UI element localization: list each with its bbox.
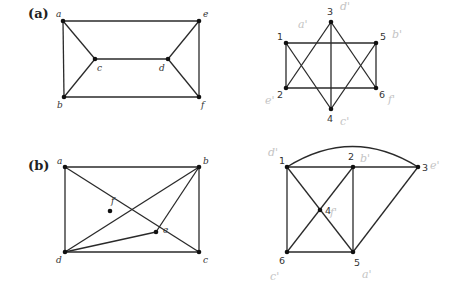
handwritten-annotation: e' [430,159,440,172]
vertex-label-5: 5 [354,257,360,268]
vertex-label-6: 6 [379,89,385,100]
graph-isomorphism-diagram: (a) aecdbf 315264a'd'b'e'f'c' (b) abfedc… [0,0,456,287]
edge-b-c [64,59,95,97]
vertex-3 [416,165,421,170]
vertex-label-d: d [56,255,62,265]
vertex-label-c: c [203,255,208,265]
edge-3-6 [331,22,376,88]
vertex-label-b: b [57,100,63,110]
vertex-1 [285,165,290,170]
vertex-label-a: a [57,156,62,166]
vertex-5 [351,250,356,255]
vertex-label-5: 5 [380,31,386,42]
part-b-label: (b) [28,158,49,173]
vertex-a [61,19,66,24]
vertex-label-6: 6 [279,255,285,266]
vertex-label-f: f [110,196,116,206]
handwritten-annotation: f' [329,206,337,219]
vertex-a [63,165,68,170]
vertex-label-a: a [56,9,61,19]
vertex-label-f: f [200,100,206,110]
vertex-f [197,95,202,100]
edge-d-e [168,21,199,59]
vertex-4 [329,107,334,112]
graph-a-right: 315264a'd'b'e'f'c' [265,0,402,128]
part-a: (a) aecdbf 315264a'd'b'e'f'c' [28,0,402,128]
vertex-label-1: 1 [279,155,285,166]
vertex-2 [351,165,356,170]
vertex-4 [318,208,323,213]
vertex-b [197,165,202,170]
vertex-1 [284,41,289,46]
handwritten-annotation: f' [387,93,395,106]
vertex-label-c: c [97,63,102,73]
handwritten-annotation: b' [392,28,402,41]
vertex-label-4: 4 [327,113,333,124]
edge-1-4 [286,43,331,109]
handwritten-annotation: a' [298,18,308,31]
vertex-label-2: 2 [277,89,283,100]
vertex-label-b: b [203,156,209,166]
vertex-label-e: e [163,225,168,235]
vertex-label-1: 1 [277,31,283,42]
vertex-label-3: 3 [327,6,333,17]
edge-3-2 [286,22,331,88]
handwritten-annotation: d' [340,0,350,13]
edge-3-5 [353,167,418,252]
vertex-6 [285,250,290,255]
edge-d-e [65,232,156,252]
handwritten-annotation: a' [362,268,372,281]
handwritten-annotation: c' [270,270,279,283]
vertex-label-d: d [159,63,165,73]
edge-5-4 [331,43,376,109]
vertex-5 [374,41,379,46]
vertex-e [154,230,159,235]
vertex-6 [374,86,379,91]
vertex-label-2: 2 [348,151,354,162]
vertex-e [197,19,202,24]
handwritten-annotation: d' [268,146,278,159]
edge-b-e [156,167,199,232]
graph-b-right: 123465d'b'e'f'c'a' [268,146,440,283]
handwritten-annotation: b' [360,152,370,165]
handwritten-annotation: e' [265,94,275,107]
edge-a-b [63,21,64,97]
part-b: (b) abfedc 123465d'b'e'f'c'a' [28,146,440,283]
vertex-b [62,95,67,100]
vertex-label-e: e [203,9,208,19]
handwritten-annotation: c' [340,115,349,128]
vertex-2 [284,86,289,91]
graph-a-left: aecdbf [56,9,208,110]
vertex-c [197,250,202,255]
graph-b-left: abfedc [56,156,209,265]
vertex-3 [329,20,334,25]
vertex-d [166,57,171,62]
vertex-f [108,209,113,214]
vertex-d [63,250,68,255]
vertex-label-3: 3 [422,162,428,173]
edge-a-c [63,21,95,59]
vertex-c [93,57,98,62]
edge-d-f [168,59,199,97]
part-a-label: (a) [28,6,49,21]
